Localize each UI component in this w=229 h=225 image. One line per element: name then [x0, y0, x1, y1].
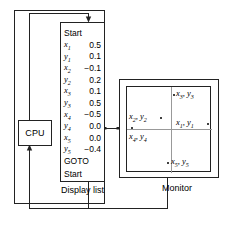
screen-point-dot	[160, 117, 162, 119]
display-list-value: 0.5	[81, 40, 101, 50]
display-list-row: x50.0	[61, 132, 104, 144]
display-list-value: 0.0	[81, 133, 101, 143]
display-list-variable: x5	[64, 132, 81, 144]
screen-point-label: x3, y3	[176, 88, 194, 100]
display-list-caption: Display list	[61, 185, 104, 195]
display-list-row: y30.5	[61, 97, 104, 109]
display-list-variable: x4	[64, 109, 81, 121]
display-list-value: 0.5	[81, 98, 101, 108]
display-list-value: −0.5	[81, 109, 101, 119]
display-list-row: x30.1	[61, 85, 104, 97]
display-list-row: y40.0	[61, 120, 104, 132]
display-list-value: 0.0	[81, 121, 101, 131]
cpu-label: CPU	[25, 128, 45, 138]
display-list-value: −0.1	[81, 63, 101, 73]
screen-point-dot	[167, 162, 169, 164]
display-list-row: x10.5	[61, 39, 104, 51]
display-list-value: −0.4	[81, 144, 101, 154]
screen-point-label: x1, y1	[176, 117, 194, 129]
screen-axis-horizontal	[127, 129, 212, 130]
display-list-header: Start	[61, 26, 104, 39]
display-list-row: y20.2	[61, 74, 104, 86]
screen-point-label: x2, y2	[129, 111, 147, 123]
display-list-entries: x10.5y10.1x2−0.1y20.2x30.1y30.5x4−0.5y40…	[61, 39, 104, 155]
display-list-goto-target: Start	[61, 168, 104, 181]
display-list-row: y5−0.4	[61, 143, 104, 155]
display-list-variable: x2	[64, 62, 81, 74]
display-list-row: x2−0.1	[61, 62, 104, 74]
cpu-box: CPU	[18, 120, 52, 146]
display-list-value: 0.2	[81, 75, 101, 85]
display-list-value: 0.1	[81, 51, 101, 61]
screen-point-label: x5, y5	[171, 156, 189, 168]
display-list-goto: GOTO	[61, 155, 104, 168]
screen-point-dot	[207, 123, 209, 125]
diagram-canvas: CPU Start x10.5y10.1x2−0.1y20.2x30.1y30.…	[0, 0, 229, 225]
display-list-variable: y3	[64, 97, 81, 109]
screen-point-dot	[131, 127, 133, 129]
display-list-box: Start x10.5y10.1x2−0.1y20.2x30.1y30.5x4−…	[60, 22, 105, 182]
display-list-row: x4−0.5	[61, 109, 104, 121]
monitor-caption: Monitor	[162, 183, 192, 193]
screen-point-dot	[173, 94, 175, 96]
display-list-variable: y2	[64, 74, 81, 86]
display-list-variable: x3	[64, 85, 81, 97]
monitor-screen: x1, y1x2, y2x3, y3x4, y4x5, y5	[126, 86, 211, 172]
display-list-variable: y4	[64, 120, 81, 132]
display-list-value: 0.1	[81, 86, 101, 96]
display-list-variable: x1	[64, 39, 81, 51]
display-list-row: y10.1	[61, 51, 104, 63]
display-list-variable: y1	[64, 51, 81, 63]
display-list-variable: y5	[64, 143, 81, 155]
screen-point-label: x4, y4	[129, 131, 147, 143]
